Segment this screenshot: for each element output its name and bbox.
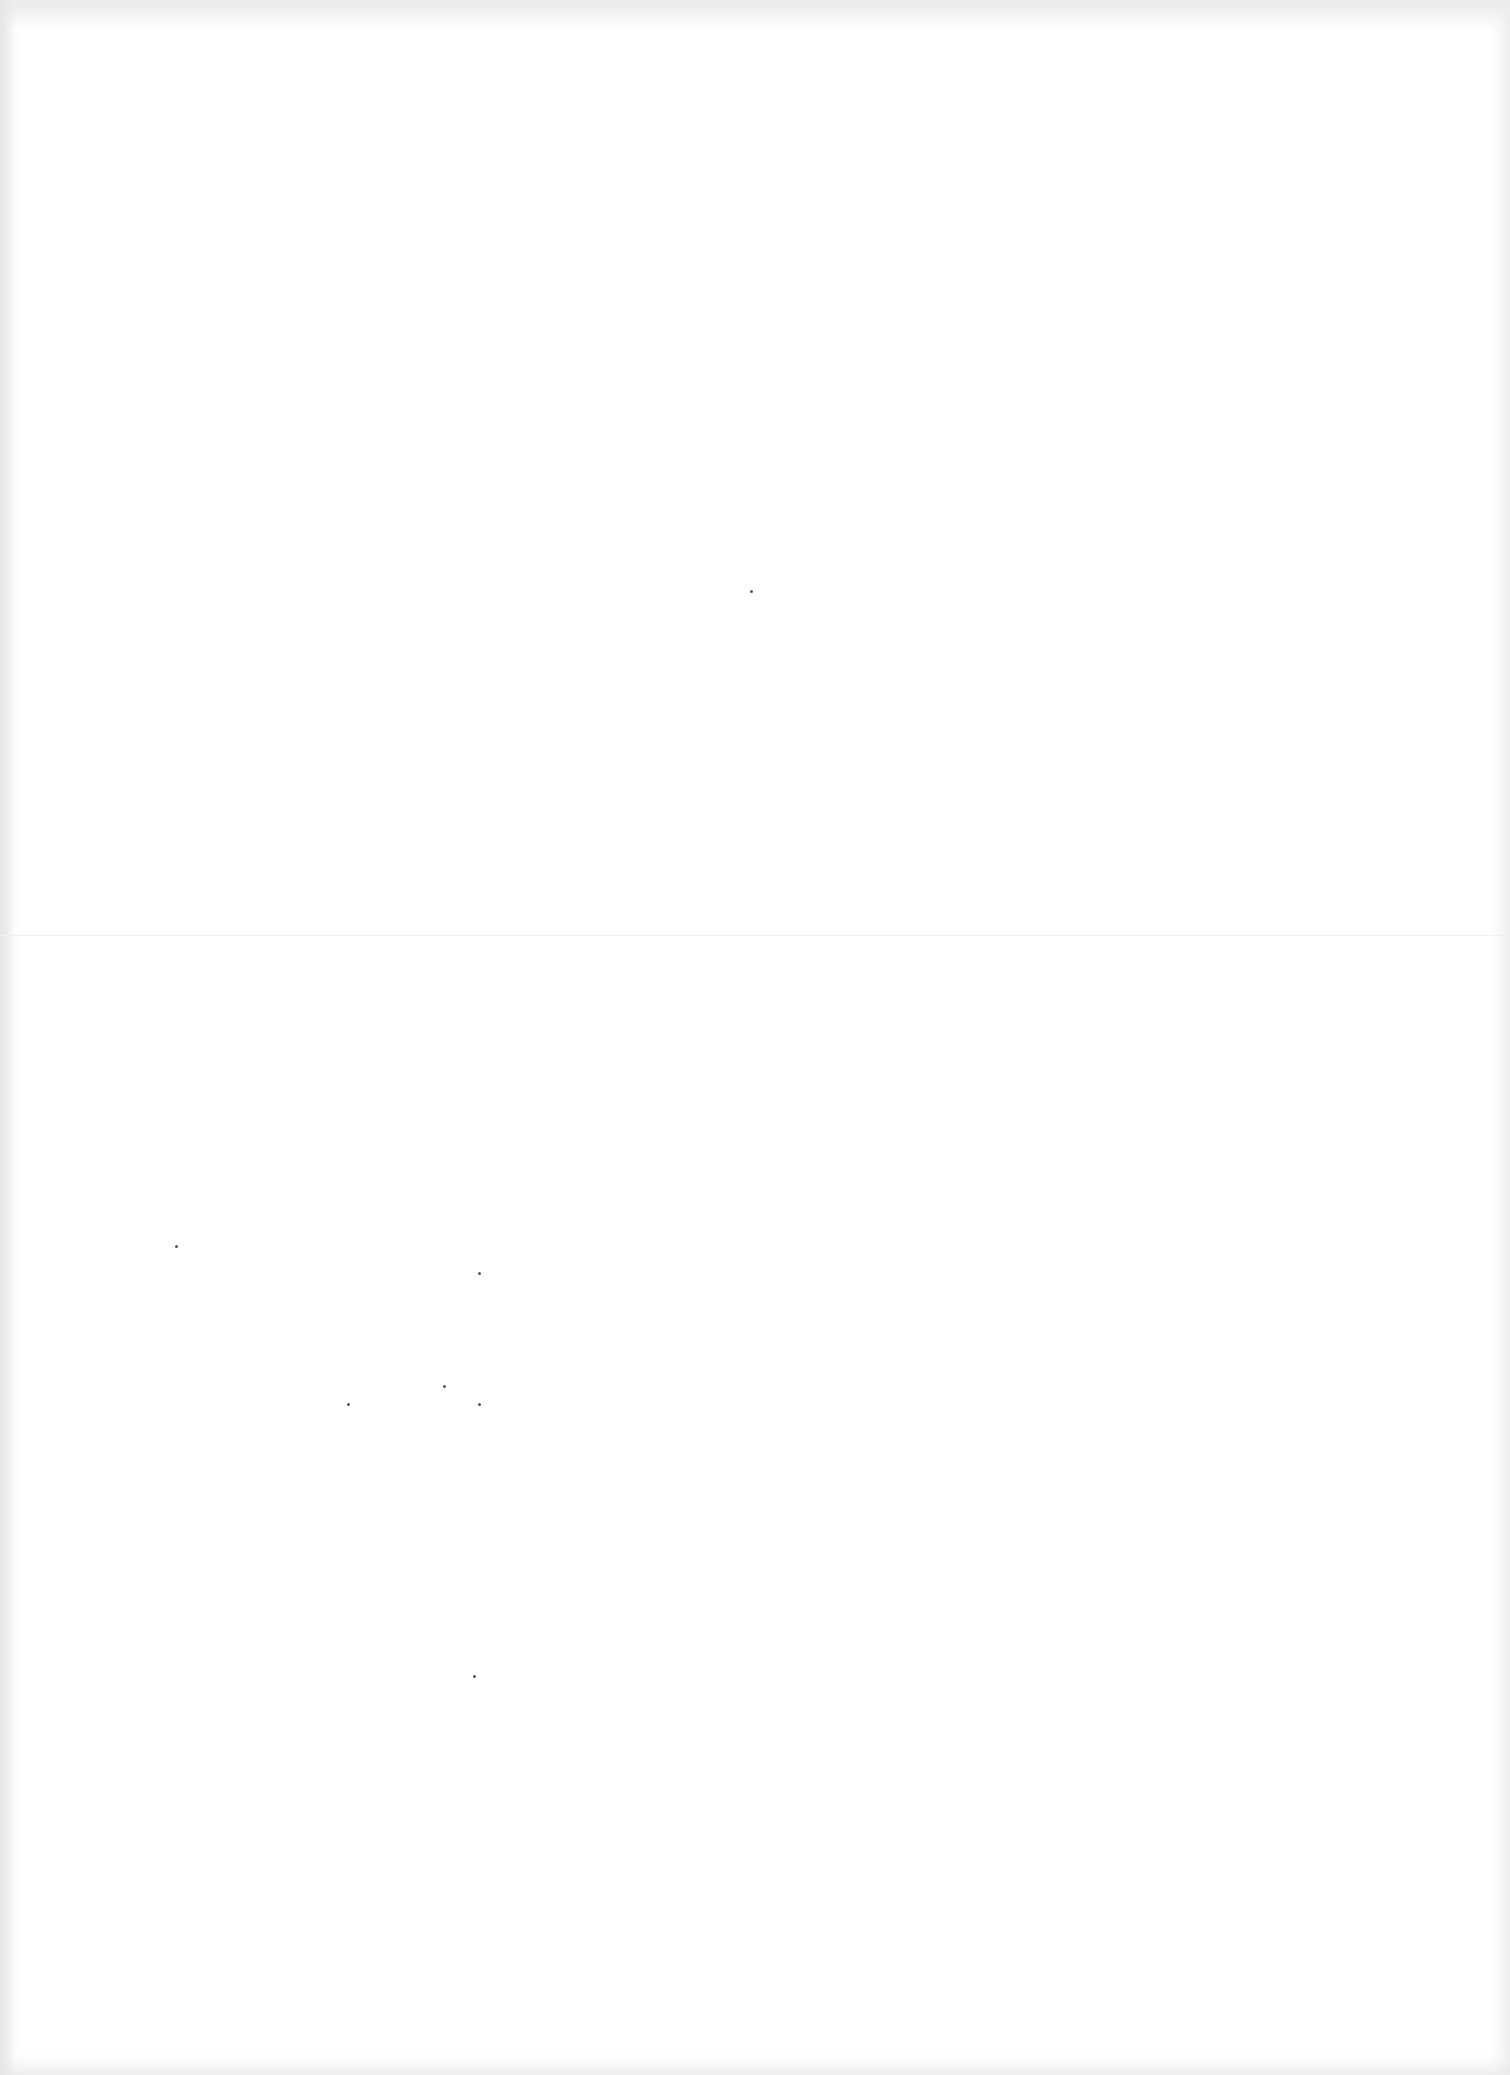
scanned-page	[0, 0, 1510, 2075]
fold-line	[0, 935, 1510, 936]
scan-edge-left	[0, 0, 14, 2075]
ink-speck	[478, 1272, 481, 1275]
ink-speck	[443, 1385, 446, 1388]
ink-speck	[473, 1675, 476, 1678]
ink-speck	[347, 1403, 350, 1406]
ink-speck	[478, 1403, 481, 1406]
scan-edge-top	[0, 0, 1510, 30]
ink-speck	[750, 590, 753, 593]
ink-speck	[175, 1245, 178, 1248]
